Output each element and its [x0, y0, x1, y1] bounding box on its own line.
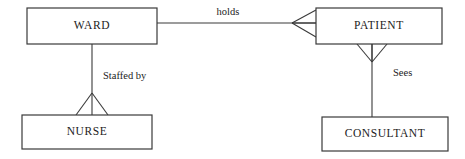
relationship-label-holds: holds: [217, 6, 240, 17]
crowsfoot-sees-patient: [357, 44, 387, 62]
entity-label-patient: PATIENT: [354, 19, 404, 31]
crowsfoot-holds-patient: [292, 10, 316, 37]
entity-nurse[interactable]: NURSE: [22, 115, 152, 149]
relationship-label-staffed-by: Staffed by: [103, 70, 147, 81]
relationship-staffed-by[interactable]: Staffed by: [76, 44, 147, 115]
entity-patient[interactable]: PATIENT: [316, 8, 442, 44]
crowsfoot-prong-left: [357, 44, 372, 62]
entity-ward[interactable]: WARD: [27, 8, 157, 44]
entity-label-consultant: CONSULTANT: [345, 127, 426, 139]
relationship-label-sees: Sees: [393, 67, 412, 78]
crowsfoot-prong-right: [92, 93, 108, 115]
er-diagram-svg: PATIENT ===== --> holds NURSE ===== --> …: [0, 0, 465, 159]
entity-label-ward: WARD: [74, 19, 110, 31]
er-diagram-canvas: PATIENT ===== --> holds NURSE ===== --> …: [0, 0, 465, 159]
relationship-sees[interactable]: Sees: [357, 44, 412, 117]
crowsfoot-prong-right: [372, 44, 387, 62]
relationship-holds[interactable]: holds: [157, 6, 316, 37]
crowsfoot-prong-left: [76, 93, 92, 115]
crowsfoot-prong-top: [292, 10, 316, 23]
entity-label-nurse: NURSE: [67, 125, 108, 137]
entity-consultant[interactable]: CONSULTANT: [322, 117, 448, 151]
crowsfoot-prong-bottom: [292, 23, 316, 37]
